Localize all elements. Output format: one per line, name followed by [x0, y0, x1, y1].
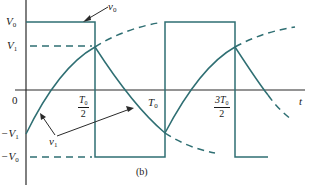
figure-caption: (b) — [136, 166, 148, 177]
x-label-t0: T0 — [148, 97, 158, 110]
annotation-v1: v1 — [49, 136, 57, 149]
y-label-v1: V1 — [7, 40, 17, 53]
v1-arrowhead-left — [40, 113, 46, 120]
v1-arrow-right — [57, 109, 130, 136]
y-label-neg-v1: −V1 — [1, 128, 19, 141]
x-axis-label-t: t — [299, 96, 302, 107]
v1-charge-continuation-2 — [235, 27, 295, 47]
v1-arrowhead-right — [126, 106, 134, 112]
v1-discharge-continuation-2 — [268, 95, 292, 120]
v0-arrowhead — [83, 15, 91, 22]
y-label-zero: 0 — [12, 95, 18, 106]
v1-charge-continuation — [95, 23, 158, 47]
x-label-half-t0: T0 2 — [78, 95, 89, 119]
waveform-diagram — [0, 0, 311, 185]
v1-discharge-continuation — [165, 133, 215, 153]
y-label-neg-v0: −V0 — [1, 151, 19, 164]
annotation-v0: v0 — [108, 1, 116, 14]
y-label-v0: V0 — [6, 16, 16, 29]
v1-arrow-left — [42, 116, 55, 135]
x-label-three-half-t0: 3T0 2 — [214, 95, 230, 119]
